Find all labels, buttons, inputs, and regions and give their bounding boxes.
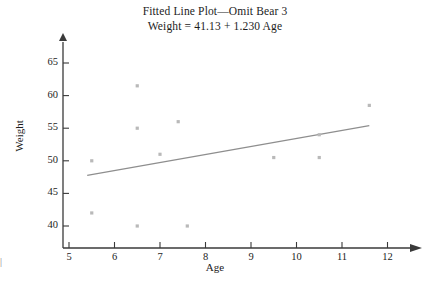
x-axis-arrowhead	[410, 244, 422, 252]
data-point	[177, 120, 180, 123]
data-point	[368, 104, 371, 107]
data-point-marker	[186, 224, 189, 227]
chart-equation-subtitle: Weight = 41.13 + 1.230 Age	[0, 19, 430, 34]
data-point-marker	[177, 120, 180, 123]
page-edge-artifact: |	[0, 256, 2, 267]
data-point	[318, 156, 321, 159]
axis-ticks-group	[63, 63, 388, 248]
data-point	[90, 211, 93, 214]
x-tick-label: 5	[59, 251, 79, 262]
chart-title: Fitted Line Plot—Omit Bear 3	[0, 4, 430, 19]
data-point-marker	[90, 159, 93, 162]
y-tick-label: 50	[34, 154, 58, 165]
data-point-marker	[272, 156, 275, 159]
x-tick-label: 7	[150, 251, 170, 262]
chart-title-block: Fitted Line Plot—Omit Bear 3 Weight = 41…	[0, 4, 430, 34]
y-tick-label: 65	[34, 56, 58, 67]
data-point	[90, 159, 93, 162]
data-point	[272, 156, 275, 159]
data-point-marker	[318, 156, 321, 159]
x-tick-label: 9	[241, 251, 261, 262]
data-point-marker	[136, 84, 139, 87]
data-points-group	[90, 84, 371, 227]
data-point	[186, 224, 189, 227]
x-tick-label: 6	[105, 251, 125, 262]
data-point-marker	[318, 133, 321, 136]
data-point-marker	[136, 127, 139, 130]
data-point-marker	[368, 104, 371, 107]
axes-group	[59, 33, 422, 252]
y-tick-label: 40	[34, 219, 58, 230]
data-point-marker	[90, 211, 93, 214]
data-point	[318, 133, 321, 136]
regression-line-group	[87, 126, 369, 176]
data-point	[136, 84, 139, 87]
x-axis-title: Age	[0, 261, 430, 273]
plot-canvas	[0, 0, 430, 285]
data-point	[158, 153, 161, 156]
x-tick-label: 10	[287, 251, 307, 262]
y-tick-label: 60	[34, 89, 58, 100]
data-point	[136, 224, 139, 227]
x-tick-label: 12	[378, 251, 398, 262]
data-point-marker	[158, 153, 161, 156]
regression-line	[87, 126, 369, 176]
y-axis-arrowhead	[59, 33, 67, 41]
x-tick-label: 11	[332, 251, 352, 262]
data-point-marker	[136, 224, 139, 227]
y-axis-title: Weight	[13, 106, 25, 166]
fitted-line-plot-figure: Fitted Line Plot—Omit Bear 3 Weight = 41…	[0, 0, 430, 285]
y-tick-label: 45	[34, 186, 58, 197]
y-tick-label: 55	[34, 121, 58, 132]
data-point	[136, 127, 139, 130]
x-tick-label: 8	[196, 251, 216, 262]
